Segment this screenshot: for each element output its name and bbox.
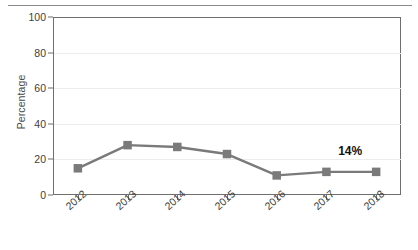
y-axis-title: Percentage (15, 47, 27, 157)
y-tick-label: 100 (28, 11, 46, 23)
plot-area: 020406080100 (53, 17, 401, 195)
data-point-marker (74, 164, 83, 173)
data-point-marker (372, 168, 381, 177)
y-tick-label: 40 (34, 118, 46, 130)
y-tick-label: 0 (40, 189, 46, 201)
y-tick-label: 20 (34, 153, 46, 165)
data-series-layer (53, 17, 401, 195)
y-tick-label: 80 (34, 47, 46, 59)
data-point-marker (173, 143, 182, 152)
data-point-marker (272, 171, 281, 180)
data-point-marker (123, 141, 132, 150)
data-point-marker (223, 150, 232, 159)
series-line (78, 145, 376, 175)
top-divider-rule (8, 5, 412, 6)
data-point-marker (322, 168, 331, 177)
chart-figure: Percentage 020406080100 2012201320142015… (0, 0, 418, 250)
data-label-annotation: 14% (338, 144, 362, 158)
y-tick-label: 60 (34, 82, 46, 94)
